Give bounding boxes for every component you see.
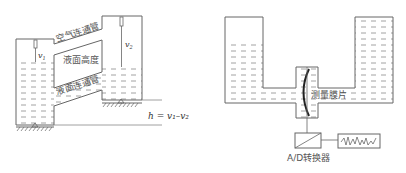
sensor-1-icon [34,40,37,48]
signal-display-icon [338,134,380,148]
level-label: 液面高度 [63,54,99,65]
membrane-label: 测量膜片 [311,89,347,100]
left-diagram: 空气连通管 液面高度 液面连通管 v1 v2 h = v₁–v₂ [16,16,189,131]
right-tank-liquid [102,67,142,100]
v2-label: v2 [125,40,133,50]
formula-label: h = v₁–v₂ [148,111,189,121]
diagram-canvas: 空气连通管 液面高度 液面连通管 v1 v2 h = v₁–v₂ 测量膜片 A/… [0,0,406,173]
right-diagram: 测量膜片 A/D转换器 [225,17,393,163]
converter-label: A/D转换器 [287,152,330,163]
air-pipe-label: 空气连通管 [54,20,100,44]
left-tank-liquid [17,62,54,125]
sensor-2-icon [120,17,123,26]
v1-label: v1 [38,51,46,61]
